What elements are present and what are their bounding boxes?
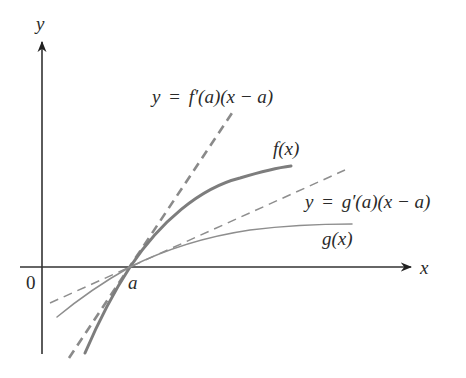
f-tangent-label-y: y xyxy=(150,86,161,107)
f-tangent-label-rhs: f′(a)(x − a) xyxy=(189,86,274,108)
g-tangent-line xyxy=(50,170,345,303)
origin-label: 0 xyxy=(26,272,36,293)
y-axis-label: y xyxy=(34,13,45,34)
g-tangent-label-rhs: g′(a)(x − a) xyxy=(342,191,431,213)
diagram-canvas: y x 0 a y = f′(a)(x − a) y = g′(a)(x − a… xyxy=(0,0,466,378)
f-curve-label: f(x) xyxy=(273,138,299,160)
g-tangent-label-y: y xyxy=(303,191,314,212)
x-axis-label: x xyxy=(419,257,429,278)
g-curve-label: g(x) xyxy=(322,228,353,250)
f-tangent-label: y = f′(a)(x − a) xyxy=(150,86,273,108)
g-tangent-label-eq: = xyxy=(322,191,333,212)
g-curve xyxy=(57,224,352,317)
f-tangent-line xyxy=(69,113,232,358)
f-curve xyxy=(85,166,291,353)
f-tangent-label-eq: = xyxy=(169,86,180,107)
g-tangent-label: y = g′(a)(x − a) xyxy=(303,191,430,213)
point-a-label: a xyxy=(128,272,138,293)
